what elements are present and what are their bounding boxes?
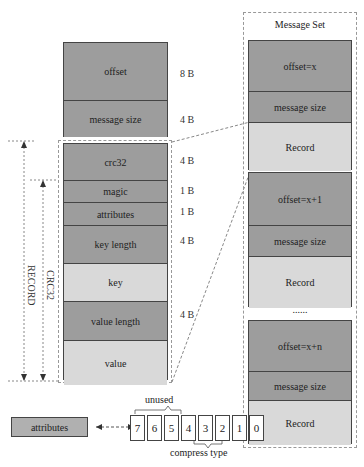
bit-3: 3: [198, 415, 213, 441]
field-label: value: [105, 358, 127, 369]
record-block: Record: [249, 257, 351, 308]
attributes-field: attributes: [64, 203, 167, 226]
field-label: Record: [286, 277, 315, 288]
field-label: crc32: [104, 157, 126, 168]
crc32-field: crc32: [64, 144, 167, 181]
bit-0: 0: [249, 415, 264, 441]
bit-row: 7 6 5 4 3 2 1 0: [130, 415, 264, 441]
bit-4: 4: [181, 415, 196, 441]
field-label: message size: [274, 102, 326, 113]
size-key-length: 4 B: [180, 235, 194, 246]
field-label: message size: [274, 236, 326, 247]
field-label: offset: [104, 66, 127, 77]
field-label: attributes: [31, 422, 68, 433]
value-length-field: value length: [64, 302, 167, 341]
ellipsis: ......: [243, 304, 357, 315]
size-crc32: 4 B: [180, 155, 194, 166]
offset-field: offset: [64, 43, 167, 101]
attributes-box: attributes: [11, 417, 88, 437]
record-bracket-label: RECORD: [26, 265, 37, 306]
compress-type-label: compress type: [170, 447, 228, 458]
key-field: key: [64, 264, 167, 302]
bit-7: 7: [130, 415, 145, 441]
bit-6: 6: [147, 415, 162, 441]
field-label: Record: [286, 418, 315, 429]
message-group-1: offset=x message size Record: [248, 40, 352, 170]
record-block: Record: [249, 401, 351, 445]
field-label: offset=x: [283, 61, 316, 72]
size-message-size: 4 B: [180, 114, 194, 125]
value-field: value: [64, 341, 167, 385]
field-label: offset=x+n: [278, 341, 322, 352]
record-stack: crc32 magic attributes key length key va…: [63, 143, 168, 380]
field-label: attributes: [97, 209, 134, 220]
key-length-field: key length: [64, 226, 167, 264]
record-block: Record: [249, 123, 351, 171]
offset-x: offset=x: [249, 41, 351, 92]
field-label: message size: [274, 381, 326, 392]
field-label: value length: [91, 316, 140, 327]
crc32-bracket-label: CRC32: [45, 270, 56, 300]
field-label: Record: [286, 142, 315, 153]
field-label: key: [108, 277, 122, 288]
size-value-length: 4 B: [180, 309, 194, 320]
size-attributes: 1 B: [180, 206, 194, 217]
offset-x-plus-1: offset=x+1: [249, 173, 351, 226]
message-size-field: message size: [64, 101, 167, 137]
bit-5: 5: [164, 415, 179, 441]
size-offset: 8 B: [180, 68, 194, 79]
bit-1: 1: [232, 415, 247, 441]
message-set-title: Message Set: [243, 19, 357, 30]
size-magic: 1 B: [180, 185, 194, 196]
field-label: offset=x+1: [278, 194, 322, 205]
offset-x-plus-n: offset=x+n: [249, 321, 351, 372]
message-size: message size: [249, 372, 351, 401]
bit-2: 2: [215, 415, 230, 441]
message-group-2: offset=x+1 message size Record: [248, 172, 352, 307]
message-size: message size: [249, 226, 351, 257]
field-label: key length: [95, 239, 137, 250]
unused-label: unused: [145, 394, 173, 405]
field-label: magic: [103, 186, 127, 197]
message-header-stack: offset message size: [63, 42, 168, 137]
magic-field: magic: [64, 181, 167, 203]
message-size: message size: [249, 92, 351, 123]
field-label: message size: [90, 114, 142, 125]
